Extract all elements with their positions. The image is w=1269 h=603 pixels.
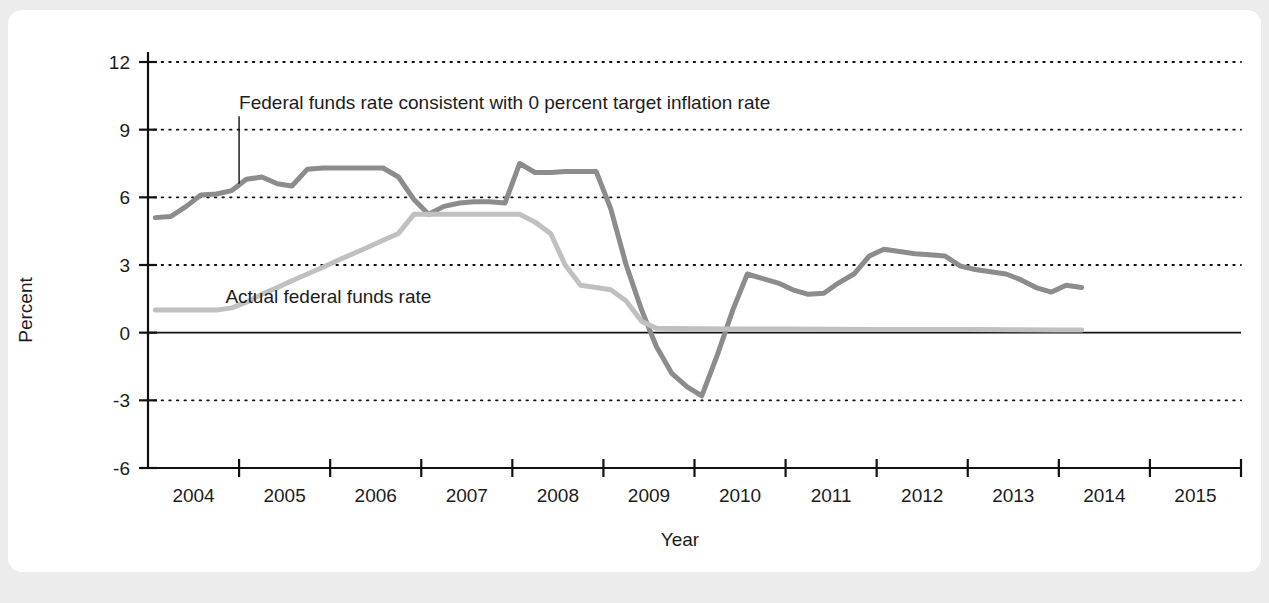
x-axis-tick-label: 2005 [263, 485, 305, 506]
y-axis-tick-label: 12 [109, 52, 130, 73]
x-axis: 2004200520062007200820092010201120122013… [148, 459, 1241, 506]
x-axis-tick-label: 2007 [446, 485, 488, 506]
x-axis-tick-label: 2014 [1083, 485, 1126, 506]
y-axis-tick-label: 3 [119, 255, 130, 276]
x-axis-tick-label: 2010 [719, 485, 761, 506]
line-chart: 129630-3-6 20042005200620072008200920102… [8, 10, 1261, 572]
series-label-actual-rate: Actual federal funds rate [225, 286, 431, 307]
y-axis-tick-label: 6 [119, 187, 130, 208]
x-axis-title: Year [661, 529, 700, 550]
x-axis-tick-label: 2004 [172, 485, 215, 506]
x-axis-tick-label: 2012 [901, 485, 943, 506]
y-axis-title: Percent [15, 277, 36, 343]
y-axis-tick-label: -6 [113, 458, 130, 479]
y-axis-tick-label: 0 [119, 323, 130, 344]
y-axis: 129630-3-6 [109, 52, 157, 479]
figure-panel: 129630-3-6 20042005200620072008200920102… [8, 10, 1261, 572]
series-label-target-rate: Federal funds rate consistent with 0 per… [239, 92, 770, 113]
y-axis-tick-label: 9 [119, 120, 130, 141]
data-series-group [155, 164, 1081, 396]
x-axis-tick-label: 2008 [537, 485, 579, 506]
x-axis-tick-label: 2009 [628, 485, 670, 506]
x-axis-tick-label: 2015 [1174, 485, 1216, 506]
chart-canvas: 129630-3-6 20042005200620072008200920102… [8, 10, 1261, 572]
x-axis-tick-label: 2011 [811, 485, 852, 506]
x-axis-tick-label: 2006 [355, 485, 397, 506]
gridlines [148, 62, 1241, 468]
y-axis-tick-label: -3 [113, 390, 130, 411]
x-axis-tick-label: 2013 [992, 485, 1034, 506]
